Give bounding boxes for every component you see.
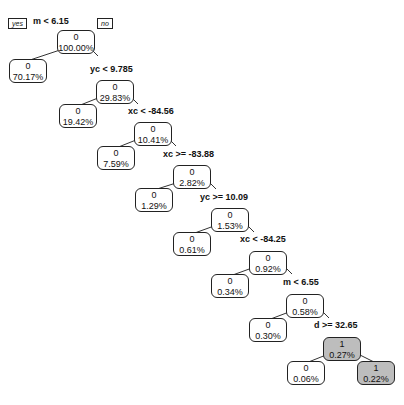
node-percent: 2.82% (174, 178, 210, 189)
split-label-n9: yc >= 10.09 (200, 192, 248, 202)
node-percent: 0.92% (250, 264, 286, 275)
node-class: 0 (136, 190, 172, 201)
tree-leaf: 0 0.06% (287, 361, 325, 385)
tree-node-class1: 1 0.27% (323, 337, 361, 361)
node-class: 0 (58, 32, 94, 43)
node-class: 0 (212, 210, 248, 221)
node-class: 0 (287, 296, 323, 307)
node-percent: 0.22% (358, 374, 394, 385)
node-percent: 0.30% (250, 331, 286, 342)
node-percent: 7.59% (98, 159, 134, 170)
tree-node-root: 0 100.00% (57, 30, 95, 54)
node-percent: 100.00% (58, 43, 94, 54)
split-label-n7: xc >= -83.88 (163, 149, 214, 159)
split-label-n11: xc < -84.25 (240, 234, 286, 244)
node-class: 0 (174, 234, 210, 245)
node-percent: 10.41% (135, 135, 171, 146)
node-class: 0 (250, 253, 286, 264)
split-label-n5: xc < -84.56 (128, 106, 174, 116)
tree-leaf: 0 70.17% (9, 59, 47, 83)
node-percent: 70.17% (10, 72, 46, 83)
node-percent: 0.27% (324, 350, 360, 361)
node-class: 1 (324, 339, 360, 350)
tree-leaf: 0 0.61% (173, 232, 211, 256)
node-class: 0 (135, 124, 171, 135)
node-class: 0 (60, 106, 96, 117)
node-class: 0 (212, 276, 248, 287)
node-class: 1 (358, 363, 394, 374)
split-label-n15: d >= 32.65 (314, 320, 358, 330)
node-percent: 19.42% (60, 117, 96, 128)
node-class: 0 (97, 82, 133, 93)
split-label-n3: yc < 9.785 (90, 64, 133, 74)
node-percent: 0.06% (288, 374, 324, 385)
tree-leaf: 0 0.34% (211, 274, 249, 298)
node-class: 0 (288, 363, 324, 374)
node-percent: 0.58% (287, 307, 323, 318)
tree-leaf: 0 19.42% (59, 104, 97, 128)
tree-node: 0 29.83% (96, 80, 134, 104)
tree-node: 0 1.53% (211, 208, 249, 232)
node-percent: 1.53% (212, 221, 248, 232)
split-label-n13: m < 6.55 (283, 277, 319, 287)
tree-node: 0 0.58% (286, 294, 324, 318)
tree-leaf: 0 0.30% (249, 318, 287, 342)
node-percent: 29.83% (97, 93, 133, 104)
node-percent: 0.61% (174, 245, 210, 256)
yes-branch-tag: yes (8, 18, 27, 29)
tree-node: 0 10.41% (134, 122, 172, 146)
tree-node: 0 2.82% (173, 165, 211, 189)
tree-node: 0 0.92% (249, 251, 287, 275)
node-class: 0 (98, 148, 134, 159)
tree-leaf: 0 1.29% (135, 188, 173, 212)
decision-tree: yes no m < 6.15 yc < 9.785 xc < -84.56 x… (0, 0, 404, 405)
tree-leaf-class1: 1 0.22% (357, 361, 395, 385)
split-label-root: m < 6.15 (33, 16, 69, 26)
node-class: 0 (10, 61, 46, 72)
tree-leaf: 0 7.59% (97, 146, 135, 170)
node-percent: 1.29% (136, 201, 172, 212)
no-branch-tag: no (97, 18, 113, 29)
node-percent: 0.34% (212, 287, 248, 298)
node-class: 0 (250, 320, 286, 331)
node-class: 0 (174, 167, 210, 178)
